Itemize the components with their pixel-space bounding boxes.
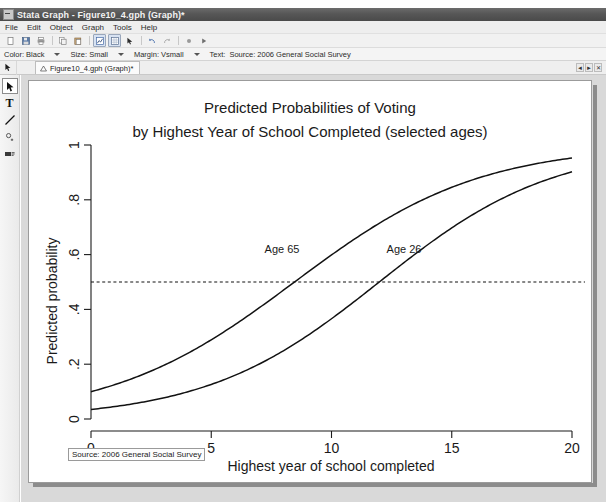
size-property-label: Size: Small	[70, 50, 108, 59]
menu-item-edit[interactable]: Edit	[27, 23, 41, 32]
text-property-value[interactable]: Source: 2006 General Social Survey	[229, 50, 350, 59]
x-tick-label-10: 10	[324, 440, 340, 456]
color-property-label: Color: Black	[4, 50, 44, 59]
graph-canvas-area[interactable]: Predicted Probabilities of Voting by Hig…	[21, 75, 606, 502]
menu-item-tools[interactable]: Tools	[113, 23, 132, 32]
menu-item-object[interactable]: Object	[50, 23, 73, 32]
chevron-down-icon[interactable]	[118, 53, 124, 56]
menu-bar: File Edit Object Graph Tools Help	[0, 21, 606, 34]
copy-icon[interactable]	[56, 34, 69, 47]
x-tick-label-5: 5	[207, 440, 215, 456]
redo-icon[interactable]	[160, 34, 173, 47]
stata-graph-icon	[3, 9, 14, 20]
print-icon[interactable]	[34, 34, 47, 47]
annotation-age-65: Age 65	[265, 243, 300, 255]
annotation-age-26: Age 26	[387, 243, 422, 255]
play-icon[interactable]	[197, 34, 210, 47]
properties-bar: Color: Black Size: Small Margin: Vsmall …	[0, 48, 606, 61]
toolbar-separator	[52, 36, 53, 45]
pointer-tool-icon[interactable]	[123, 34, 136, 47]
chart-title: Predicted Probabilities of Voting	[204, 99, 416, 116]
y-tick-label-06: .6	[66, 249, 82, 261]
menu-item-file[interactable]: File	[5, 23, 18, 32]
x-tick-label-20: 20	[564, 440, 580, 456]
pointer-tool[interactable]	[2, 78, 18, 94]
tab-prev-button[interactable]: ◄	[576, 63, 584, 72]
margin-property-label: Margin: Vsmall	[134, 50, 184, 59]
toolbar-separator	[89, 36, 90, 45]
paper-shadow-bottom	[33, 483, 597, 487]
color-property[interactable]: Color: Black	[4, 50, 66, 59]
document-tab-figure10-4[interactable]: Figure10_4.gph (Graph)*	[35, 61, 140, 74]
line-tool[interactable]	[2, 112, 18, 128]
source-note[interactable]: Source: 2006 General Social Survey	[68, 448, 205, 461]
x-tick-label-15: 15	[444, 440, 460, 456]
margin-property[interactable]: Margin: Vsmall	[134, 50, 206, 59]
text-tool[interactable]: T	[2, 95, 18, 111]
paper-shadow-right	[593, 85, 597, 485]
chart-subtitle: by Highest Year of School Completed (sel…	[132, 123, 487, 140]
paste-icon[interactable]	[71, 34, 84, 47]
y-tick-label-02: .2	[66, 358, 82, 370]
grid-icon[interactable]	[108, 34, 121, 47]
tab-next-button[interactable]: ►	[585, 63, 593, 72]
y-tick-label-1: 1	[66, 141, 82, 149]
text-property[interactable]: Text: Source: 2006 General Social Survey	[210, 50, 351, 59]
menu-item-graph[interactable]: Graph	[82, 23, 104, 32]
pointer-tool-icon[interactable]	[0, 61, 17, 75]
title-bar: Stata Graph - Figure10_4.gph (Graph)*	[0, 8, 606, 21]
window-title: Stata Graph - Figure10_4.gph (Graph)*	[17, 10, 185, 20]
y-tick-marks	[84, 145, 91, 419]
tool-palette: T	[0, 75, 20, 502]
size-property[interactable]: Size: Small	[70, 50, 130, 59]
document-tab-label: Figure10_4.gph (Graph)*	[50, 64, 133, 73]
window-top-margin	[0, 0, 606, 8]
new-icon[interactable]	[4, 34, 17, 47]
undo-icon[interactable]	[145, 34, 158, 47]
text-property-label: Text:	[210, 50, 226, 59]
tab-nav-controls: ◄ ► ✕	[575, 63, 602, 72]
y-tick-label-04: .4	[66, 303, 82, 315]
x-axis-label: Highest year of school completed	[228, 458, 435, 474]
y-axis: 1 .8 .6 .4 .2 0	[66, 141, 91, 423]
y-tick-label-0: 0	[66, 415, 82, 423]
stata-graph-window: Stata Graph - Figure10_4.gph (Graph)* Fi…	[0, 0, 606, 502]
close-icon[interactable]: ✕	[594, 63, 602, 72]
graph-paper[interactable]: Predicted Probabilities of Voting by Hig…	[28, 80, 592, 483]
toolbar-separator	[141, 36, 142, 45]
y-tick-label-08: .8	[66, 194, 82, 206]
record-icon[interactable]	[182, 34, 195, 47]
save-icon[interactable]	[19, 34, 32, 47]
label-tool[interactable]	[2, 146, 18, 162]
y-axis-label: Predicted probability	[44, 238, 60, 365]
marker-tool[interactable]	[2, 129, 18, 145]
chevron-down-icon[interactable]	[194, 53, 200, 56]
graph-editor-icon[interactable]	[93, 34, 106, 47]
menu-item-help[interactable]: Help	[141, 23, 157, 32]
icon-toolbar	[0, 34, 606, 48]
graph-file-icon	[40, 65, 47, 72]
toolbar-separator	[178, 36, 179, 45]
curve-age-65	[91, 158, 572, 392]
chevron-down-icon[interactable]	[54, 53, 60, 56]
tab-strip: Figure10_4.gph (Graph)* ◄ ► ✕	[0, 61, 606, 75]
predicted-probabilities-chart: Predicted Probabilities of Voting by Hig…	[29, 81, 591, 482]
curve-age-26	[91, 172, 572, 410]
text-tool-label: T	[5, 97, 13, 109]
